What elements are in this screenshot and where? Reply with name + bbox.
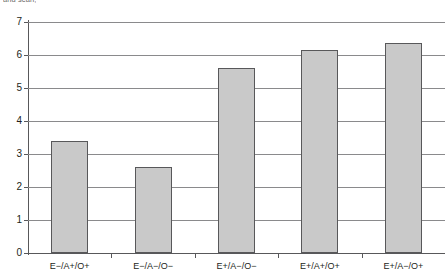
clipped-caption-text: and scan, (3, 0, 36, 3)
y-tick-label: 2 (16, 181, 22, 192)
y-tick-mark (24, 220, 28, 221)
x-axis-label: E+/A−/O− (217, 261, 257, 272)
x-tick-mark (111, 253, 112, 258)
bar (51, 141, 88, 253)
x-axis-label: E−/A+/O+ (50, 261, 90, 272)
x-tick-mark (195, 253, 196, 258)
y-tick-label: 1 (16, 214, 22, 225)
bar (218, 68, 255, 253)
x-axis-label: E+/A+/O+ (300, 261, 340, 272)
y-tick-label: 6 (16, 49, 22, 60)
gridline (28, 22, 445, 23)
plot-area: 01234567 (28, 22, 445, 253)
y-tick-label: 4 (16, 115, 22, 126)
y-tick-mark (24, 121, 28, 122)
bar (301, 50, 338, 253)
x-axis-label: E−/A−/O− (133, 261, 173, 272)
y-tick-label: 7 (16, 16, 22, 27)
y-tick-mark (24, 187, 28, 188)
x-tick-mark (278, 253, 279, 258)
y-tick-mark (24, 88, 28, 89)
x-tick-mark (362, 253, 363, 258)
y-tick-mark (24, 253, 28, 254)
gridline (28, 55, 445, 56)
y-tick-label: 5 (16, 82, 22, 93)
x-axis-label: E+/A−/O+ (383, 261, 423, 272)
y-tick-mark (24, 55, 28, 56)
y-tick-label: 0 (16, 247, 22, 258)
y-tick-mark (24, 22, 28, 23)
bar-chart: and scan, 01234567 E−/A+/O+E−/A−/O−E+/A−… (0, 0, 447, 273)
bar (135, 167, 172, 253)
bar (385, 43, 422, 253)
y-tick-mark (24, 154, 28, 155)
y-tick-label: 3 (16, 148, 22, 159)
x-axis-line (28, 253, 445, 254)
